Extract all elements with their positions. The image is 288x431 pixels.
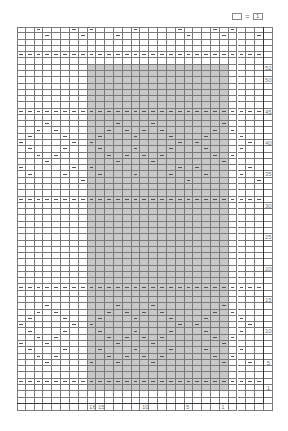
purl-symbol-icon bbox=[134, 136, 138, 137]
purl-symbol-icon bbox=[72, 287, 76, 288]
purl-symbol-icon bbox=[213, 54, 217, 55]
purl-symbol-icon bbox=[28, 148, 32, 149]
purl-symbol-icon bbox=[19, 324, 23, 325]
purl-symbol-icon bbox=[231, 199, 235, 200]
purl-symbol-icon bbox=[116, 343, 120, 344]
purl-symbol-icon bbox=[90, 324, 94, 325]
purl-symbol-icon bbox=[125, 287, 129, 288]
chart-bottom-border bbox=[17, 403, 264, 404]
purl-symbol-icon bbox=[213, 287, 217, 288]
purl-symbol-icon bbox=[204, 54, 208, 55]
purl-symbol-icon bbox=[116, 35, 120, 36]
purl-symbol-icon bbox=[178, 54, 182, 55]
purl-symbol-icon bbox=[213, 381, 217, 382]
purl-symbol-icon bbox=[45, 381, 49, 382]
purl-symbol-icon bbox=[222, 199, 226, 200]
purl-symbol-icon bbox=[19, 142, 23, 143]
purl-symbol-icon bbox=[90, 54, 94, 55]
purl-symbol-icon bbox=[37, 54, 41, 55]
row-number-label: 35 bbox=[264, 171, 273, 177]
column-label-cell bbox=[238, 404, 247, 411]
purl-symbol-icon bbox=[125, 130, 129, 131]
purl-symbol-icon bbox=[142, 199, 146, 200]
purl-symbol-icon bbox=[248, 287, 252, 288]
column-label-cell bbox=[255, 404, 264, 411]
purl-symbol-icon bbox=[72, 324, 76, 325]
purl-symbol-icon bbox=[72, 381, 76, 382]
purl-symbol-icon bbox=[151, 381, 155, 382]
purl-symbol-icon bbox=[98, 331, 102, 332]
purl-symbol-icon bbox=[28, 111, 32, 112]
purl-symbol-icon bbox=[240, 199, 244, 200]
purl-symbol-icon bbox=[169, 111, 173, 112]
purl-symbol-icon bbox=[231, 287, 235, 288]
purl-symbol-icon bbox=[63, 111, 67, 112]
purl-symbol-icon bbox=[248, 324, 252, 325]
purl-symbol-icon bbox=[187, 35, 191, 36]
purl-symbol-icon bbox=[45, 287, 49, 288]
purl-symbol-icon bbox=[231, 356, 235, 357]
purl-symbol-icon bbox=[151, 305, 155, 306]
row-number-label: 45 bbox=[264, 109, 273, 115]
purl-symbol-icon bbox=[19, 54, 23, 55]
purl-symbol-icon bbox=[222, 111, 226, 112]
purl-symbol-icon bbox=[204, 349, 208, 350]
purl-symbol-icon bbox=[19, 343, 23, 344]
purl-symbol-icon bbox=[231, 54, 235, 55]
purl-symbol-icon bbox=[204, 148, 208, 149]
purl-symbol-icon bbox=[134, 199, 138, 200]
purl-symbol-icon bbox=[142, 111, 146, 112]
purl-symbol-icon bbox=[231, 155, 235, 156]
purl-symbol-icon bbox=[54, 312, 58, 313]
purl-symbol-icon bbox=[248, 111, 252, 112]
purl-symbol-icon bbox=[90, 29, 94, 30]
purl-symbol-icon bbox=[90, 381, 94, 382]
purl-symbol-icon bbox=[240, 148, 244, 149]
purl-symbol-icon bbox=[151, 123, 155, 124]
purl-symbol-icon bbox=[151, 54, 155, 55]
purl-symbol-icon bbox=[37, 199, 41, 200]
purl-symbol-icon bbox=[222, 381, 226, 382]
purl-symbol-icon bbox=[151, 362, 155, 363]
purl-symbol-icon bbox=[213, 199, 217, 200]
purl-symbol-icon bbox=[125, 381, 129, 382]
purl-symbol-icon bbox=[125, 356, 129, 357]
column-label-cell bbox=[176, 404, 185, 411]
purl-symbol-icon bbox=[125, 155, 129, 156]
column-label-cell bbox=[149, 404, 158, 411]
purl-symbol-icon bbox=[107, 381, 111, 382]
column-label-cell bbox=[26, 404, 35, 411]
purl-symbol-icon bbox=[72, 167, 76, 168]
purl-symbol-icon bbox=[125, 312, 129, 313]
purl-symbol-icon bbox=[204, 111, 208, 112]
column-label-cell bbox=[264, 404, 273, 411]
purl-symbol-icon bbox=[213, 130, 217, 131]
purl-symbol-icon bbox=[213, 356, 217, 357]
row-number-label: 1 bbox=[264, 385, 273, 391]
purl-symbol-icon bbox=[222, 362, 226, 363]
purl-symbol-icon bbox=[160, 337, 164, 338]
row-number-label: 30 bbox=[264, 203, 273, 209]
column-label-cell bbox=[52, 404, 61, 411]
purl-symbol-icon bbox=[45, 199, 49, 200]
purl-symbol-icon bbox=[240, 318, 244, 319]
purl-symbol-icon bbox=[204, 174, 208, 175]
purl-symbol-icon bbox=[63, 381, 67, 382]
purl-symbol-icon bbox=[134, 381, 138, 382]
purl-symbol-icon bbox=[98, 148, 102, 149]
purl-symbol-icon bbox=[142, 356, 146, 357]
column-number-label: 10 bbox=[142, 404, 149, 411]
purl-symbol-icon bbox=[28, 287, 32, 288]
purl-symbol-icon bbox=[142, 155, 146, 156]
purl-symbol-icon bbox=[213, 155, 217, 156]
purl-symbol-icon bbox=[231, 381, 235, 382]
purl-symbol-icon bbox=[98, 349, 102, 350]
purl-symbol-icon bbox=[28, 349, 32, 350]
purl-symbol-icon bbox=[116, 381, 120, 382]
purl-symbol-icon bbox=[195, 142, 199, 143]
purl-symbol-icon bbox=[160, 111, 164, 112]
purl-symbol-icon bbox=[19, 287, 23, 288]
column-label-cell bbox=[229, 404, 238, 411]
purl-symbol-icon bbox=[240, 136, 244, 137]
purl-symbol-icon bbox=[169, 331, 173, 332]
